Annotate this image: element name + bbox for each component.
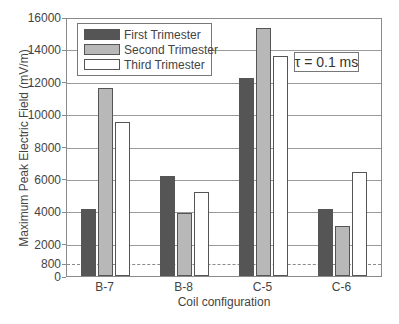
tau-annotation: τ = 0.1 ms <box>294 52 359 72</box>
legend-item-second-trimester: Second Trimester <box>84 43 218 56</box>
legend: First Trimester Second Trimester Third T… <box>77 23 212 76</box>
y-tick-label: 16000 <box>28 11 61 25</box>
y-tick-label: 4000 <box>34 205 61 219</box>
legend-label: Third Trimester <box>124 58 205 72</box>
bar-b-7-third-trimester <box>115 122 130 276</box>
x-tick-label: B-8 <box>174 280 193 294</box>
legend-item-third-trimester: Third Trimester <box>84 58 205 71</box>
legend-label: Second Trimester <box>124 43 218 57</box>
legend-item-first-trimester: First Trimester <box>84 28 201 41</box>
bar-c-5-second-trimester <box>256 28 271 276</box>
legend-swatch <box>84 59 120 70</box>
x-axis-label: Coil configuration <box>178 295 271 309</box>
y-tick-label: 6000 <box>34 173 61 187</box>
bar-b-7-second-trimester <box>98 88 113 276</box>
bar-c-5-third-trimester <box>273 56 288 276</box>
bar-b-7-first-trimester <box>81 209 96 276</box>
y-tick-label: 800 <box>41 257 61 271</box>
legend-swatch <box>84 44 120 55</box>
y-tick-label: 0 <box>54 270 61 284</box>
y-tick-label: 10000 <box>28 108 61 122</box>
bar-c-6-second-trimester <box>335 226 350 276</box>
y-tick-label: 12000 <box>28 76 61 90</box>
gridline <box>67 83 381 84</box>
legend-swatch <box>84 29 120 40</box>
gridline <box>67 115 381 116</box>
y-tick-label: 14000 <box>28 43 61 57</box>
bar-chart: Maximum Peak Electric Field (mV/m) 08002… <box>0 0 399 324</box>
x-tick-label: C-5 <box>253 280 272 294</box>
bar-c-5-first-trimester <box>239 78 254 276</box>
bar-b-8-first-trimester <box>160 176 175 276</box>
y-tick-label: 8000 <box>34 141 61 155</box>
bar-b-8-second-trimester <box>177 213 192 276</box>
bar-c-6-first-trimester <box>318 209 333 276</box>
x-tick-label: C-6 <box>332 280 351 294</box>
legend-label: First Trimester <box>124 28 201 42</box>
bar-c-6-third-trimester <box>352 172 367 276</box>
x-tick-label: B-7 <box>95 280 114 294</box>
bar-b-8-third-trimester <box>194 192 209 276</box>
y-tick-label: 2000 <box>34 238 61 252</box>
